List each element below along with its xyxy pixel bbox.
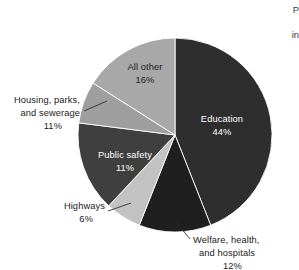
label-public-safety-value: 11% — [116, 163, 134, 173]
label-welfare-value: 12% — [223, 261, 242, 270]
pie-chart-canvas: Education 44% Public safety 11% All othe… — [0, 0, 299, 270]
label-welfare-line2: and hospitals — [199, 248, 255, 258]
label-education: Education — [201, 114, 243, 124]
label-housing-line1: Housing, parks, — [14, 95, 80, 105]
label-all-other-value: 16% — [136, 75, 155, 85]
caption-fragment-line-3: in — [265, 29, 299, 42]
label-all-other: All other — [127, 62, 162, 72]
label-public-safety: Public safety — [98, 150, 152, 160]
label-housing-value: 11% — [44, 121, 62, 131]
pie-slices-group — [78, 38, 272, 232]
label-housing-line2: and sewerage — [20, 108, 80, 118]
label-education-value: 44% — [213, 127, 232, 137]
caption-fragment-line-2 — [265, 17, 299, 30]
label-highways-value: 6% — [79, 214, 93, 224]
label-welfare-line1: Welfare, health, — [193, 235, 260, 245]
caption-fragment: P in — [265, 4, 299, 42]
label-highways: Highways — [64, 201, 105, 211]
pie-chart-figure: Education 44% Public safety 11% All othe… — [0, 0, 299, 270]
caption-fragment-line-1: P — [265, 4, 299, 17]
